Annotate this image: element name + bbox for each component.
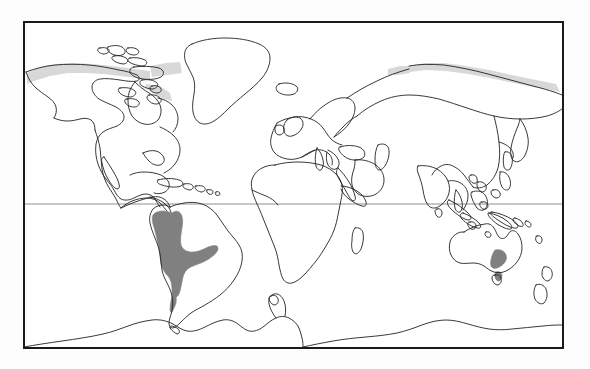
world-distribution-map [0, 0, 590, 369]
map-canvas [0, 0, 590, 369]
